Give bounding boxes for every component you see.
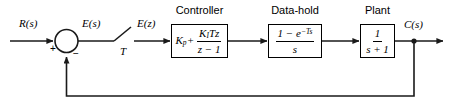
block-data-hold[interactable]: 1 − e−Ts s — [268, 24, 322, 58]
data-hold-transfer-function: 1 − e−Ts s — [275, 27, 316, 54]
summing-junction-minus-sign: − — [73, 49, 79, 59]
plant-fraction: 1 s + 1 — [364, 27, 391, 54]
data-hold-fraction-denominator: s — [291, 42, 299, 55]
plant-fraction-numerator: 1 — [373, 27, 383, 41]
caption-data-hold: Data-hold — [268, 5, 322, 16]
plant-transfer-function: 1 s + 1 — [363, 27, 392, 54]
caption-plant: Plant — [360, 5, 395, 16]
block-controller[interactable]: Kp+ KITz z − 1 — [171, 24, 228, 58]
label-output-signal: C(s) — [404, 19, 423, 30]
summing-junction-plus-sign: + — [50, 44, 56, 54]
label-reference-signal: R(s) — [19, 18, 37, 29]
data-hold-fraction: 1 − e−Ts s — [276, 27, 315, 54]
label-error-sampled: E(z) — [137, 18, 155, 29]
plant-fraction-denominator: s + 1 — [364, 42, 391, 55]
caption-controller: Controller — [171, 5, 228, 16]
data-hold-fraction-numerator: 1 − e−Ts — [276, 27, 315, 41]
controller-fraction-denominator: z − 1 — [196, 42, 223, 55]
controller-plus-operator: + — [187, 35, 195, 47]
controller-integral-fraction: KITz z − 1 — [196, 27, 223, 56]
label-error-continuous: E(s) — [82, 18, 100, 29]
sampler-switch-arm — [114, 27, 131, 41]
controller-transfer-function: Kp+ KITz z − 1 — [175, 27, 223, 56]
controller-fraction-numerator: KITz — [197, 27, 221, 43]
controller-kp-term: Kp — [175, 35, 186, 47]
label-sampling-period: T — [120, 46, 126, 57]
block-diagram: R(s) E(s) T E(z) C(s) + − Controller Dat… — [0, 0, 451, 108]
block-plant[interactable]: 1 s + 1 — [360, 24, 395, 58]
